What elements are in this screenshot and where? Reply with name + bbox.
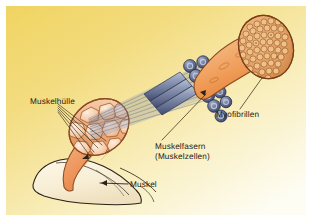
label-muskelfasern-line1: Muskelfasern — [155, 142, 206, 151]
label-muskelfasern-line2: (Muskelzellen) — [155, 152, 210, 162]
muscle-anatomy-figure: Muskelhülle Myofibrillen Muskelfasern(Mu… — [0, 0, 312, 221]
label-muskelfasern: Muskelfasern(Muskelzellen) — [155, 142, 210, 161]
label-myofibrillen: Myofibrillen — [216, 110, 259, 120]
label-muskelhuelle: Muskelhülle — [30, 97, 75, 107]
label-muskel: Muskel — [130, 180, 157, 190]
